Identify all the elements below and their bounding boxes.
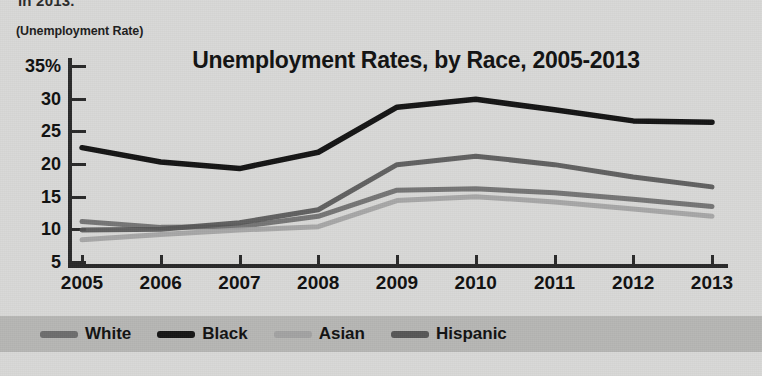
x-axis-label: 2010: [455, 272, 497, 294]
legend-swatch-icon: [40, 331, 78, 338]
legend-item-hispanic[interactable]: Hispanic: [391, 324, 507, 344]
series-line-hispanic: [82, 156, 712, 230]
y-axis-label: 25: [41, 121, 61, 142]
x-axis-label: 2008: [297, 272, 339, 294]
chart-figure: in 2013. (Unemployment Rate) Unemploymen…: [0, 0, 762, 376]
y-axis-caption: (Unemployment Rate): [16, 24, 143, 38]
x-axis-label: 2005: [61, 272, 103, 294]
y-axis-label: 10: [41, 219, 61, 240]
x-axis-label: 2009: [376, 272, 418, 294]
legend-swatch-icon: [157, 331, 195, 338]
legend-swatch-icon: [274, 331, 312, 338]
x-axis-label: 2007: [218, 272, 260, 294]
x-axis-label: 2011: [534, 272, 575, 294]
y-axis-label: 30: [41, 88, 61, 109]
legend-label: Hispanic: [436, 324, 507, 344]
legend-item-asian[interactable]: Asian: [274, 324, 365, 344]
chart-legend: WhiteBlackAsianHispanic: [40, 316, 507, 352]
series-line-black: [82, 99, 712, 168]
x-axis-label: 2013: [691, 272, 733, 294]
legend-item-black[interactable]: Black: [157, 324, 247, 344]
x-axis-label: 2012: [612, 272, 654, 294]
x-axis-label: 2006: [140, 272, 182, 294]
series-line-asian: [82, 197, 712, 240]
series-lines: [68, 58, 728, 268]
plot-area: 5101520253035% 2005200620072008200920102…: [68, 58, 728, 268]
legend-item-white[interactable]: White: [40, 324, 131, 344]
legend-label: White: [85, 324, 131, 344]
legend-label: Black: [202, 324, 247, 344]
y-axis-label: 20: [41, 154, 61, 175]
y-axis-label: 5: [51, 252, 61, 273]
y-axis-label: 15: [41, 186, 61, 207]
cut-off-caption: in 2013.: [18, 0, 75, 9]
legend-label: Asian: [319, 324, 365, 344]
legend-swatch-icon: [391, 331, 429, 338]
y-axis-label: 35%: [25, 56, 61, 77]
